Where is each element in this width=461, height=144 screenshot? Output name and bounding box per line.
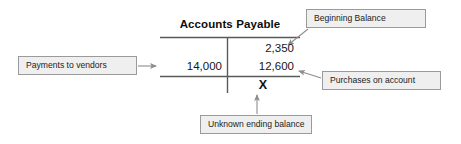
credit-entry-beginning-balance: 2,350 bbox=[232, 42, 294, 54]
t-account-title: Accounts Payable bbox=[160, 18, 300, 30]
callout-payments-to-vendors: Payments to vendors bbox=[18, 56, 137, 75]
ending-balance-marker: X bbox=[232, 78, 294, 92]
callout-beginning-balance: Beginning Balance bbox=[306, 9, 426, 28]
callout-purchases-on-account: Purchases on account bbox=[322, 71, 441, 90]
t-account-diagram: Accounts Payable 2,350 12,600 14,000 X B… bbox=[0, 0, 461, 144]
callout-unknown-ending-balance: Unknown ending balance bbox=[200, 115, 312, 134]
debit-entry-payments: 14,000 bbox=[160, 60, 222, 72]
connector-purchases-on-account bbox=[299, 71, 321, 78]
credit-entry-purchases: 12,600 bbox=[232, 60, 294, 72]
